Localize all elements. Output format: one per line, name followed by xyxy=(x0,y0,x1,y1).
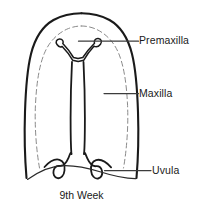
palate-outer-contour-left xyxy=(25,13,82,178)
palate-diagram-svg xyxy=(0,0,205,211)
right-uvula-lobe xyxy=(84,153,111,179)
label-premaxilla: Premaxilla xyxy=(139,35,189,46)
palatal-shelf-dashed-contour-left xyxy=(35,26,81,168)
median-palatal-cleft-left-margin xyxy=(71,62,72,154)
median-palatal-cleft-right-margin xyxy=(84,62,85,154)
palatal-shelf-dashed-contour-right xyxy=(82,26,128,168)
figure-caption: 9th Week xyxy=(0,189,163,201)
label-uvula: Uvula xyxy=(152,165,179,176)
anatomy-figure: Premaxilla Maxilla Uvula 9th Week xyxy=(0,0,205,211)
label-maxilla: Maxilla xyxy=(139,88,172,99)
y-shaped-premaxilla-bone xyxy=(56,39,101,62)
palate-outer-contour-right xyxy=(82,13,139,178)
posterior-pharyngeal-curve xyxy=(28,166,137,180)
